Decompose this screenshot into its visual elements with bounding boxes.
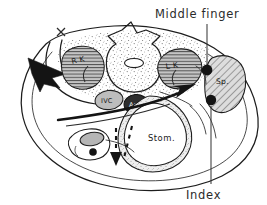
organ-label-left-kidney: L K — [165, 60, 179, 71]
organ-label-spleen: Sp. — [216, 77, 229, 86]
organ-label-ivc: IVC — [101, 97, 113, 105]
spinal-canal — [125, 58, 144, 67]
cross-section-canvas: R K L K Sp. IVC Ao Stom. — [0, 0, 267, 205]
index-finger-label: Index — [186, 188, 221, 202]
organ-left-kidney — [158, 49, 202, 89]
organ-label-stomach: Stom. — [148, 133, 175, 143]
middle-finger-label: Middle finger — [155, 7, 239, 21]
middle-finger-dot — [202, 65, 213, 76]
gallbladder-marker-dot — [89, 148, 97, 156]
index-finger-dot — [206, 95, 216, 105]
organ-gallbladder-colon — [68, 129, 110, 160]
organ-right-kidney — [62, 46, 105, 89]
anatomical-diagram: R K L K Sp. IVC Ao Stom. — [0, 0, 267, 205]
